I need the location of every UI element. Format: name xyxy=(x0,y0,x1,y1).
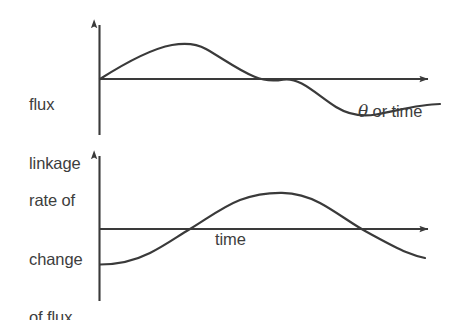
theta-symbol: θ xyxy=(358,101,368,121)
bottom-chart-y-axis-label: rate of change of flux linkage and induc… xyxy=(29,152,86,320)
top-y-label-line-1: flux xyxy=(29,95,81,115)
bottom-chart-group xyxy=(100,156,429,301)
bottom-y-label-line-2: change xyxy=(29,250,86,270)
physics-waveform-figure: flux linkage θ or time rate of change of… xyxy=(0,0,450,320)
top-x-label-rest: or time xyxy=(368,102,422,120)
top-chart-x-axis-label: θ or time xyxy=(340,82,422,141)
bottom-chart-x-axis-label: time xyxy=(215,230,246,250)
bottom-y-label-line-1: rate of xyxy=(29,191,86,211)
bottom-y-label-line-3: of flux xyxy=(29,308,86,320)
